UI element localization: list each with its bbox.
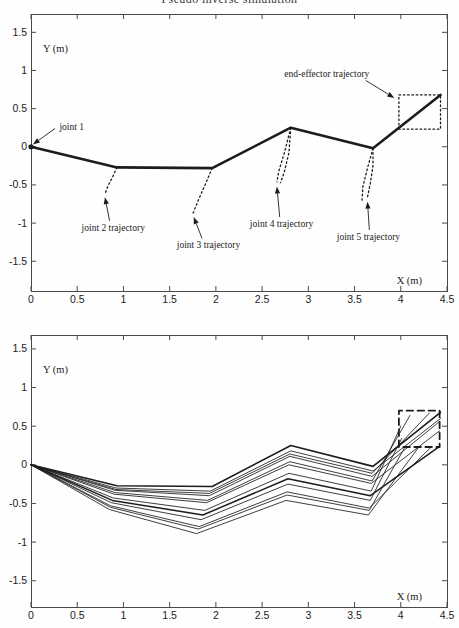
joint-3-trajectory <box>193 168 212 214</box>
annotation-arrow-line <box>366 80 389 94</box>
annotation-label: joint 2 trajectory <box>81 223 146 233</box>
x-axis-label: X (m) <box>397 275 423 287</box>
y-tick-label: -0.5 <box>9 178 27 190</box>
joint-2-trajectory <box>105 167 117 194</box>
annotation-arrowhead <box>33 138 40 144</box>
top-plot: 00.511.522.533.544.5-1.5-1-0.500.511.5X … <box>9 14 455 305</box>
x-tick-label: 2 <box>213 609 219 621</box>
annotation-arrowhead <box>104 197 109 204</box>
y-tick-label: -1 <box>18 536 27 548</box>
x-tick-label: 3 <box>305 293 311 305</box>
y-tick-label: 1 <box>21 64 27 76</box>
figure-canvas: 00.511.522.533.544.5-1.5-1-0.500.511.5X … <box>0 0 459 628</box>
arm-links <box>31 95 441 168</box>
x-tick-label: 2 <box>213 293 219 305</box>
y-tick-label: -1.5 <box>9 255 27 267</box>
annotation-arrow-line <box>106 204 109 221</box>
annotation-label: joint 1 <box>58 122 84 132</box>
x-tick-label: 2.5 <box>255 609 270 621</box>
x-tick-label: 0.5 <box>70 609 85 621</box>
x-tick-label: 4 <box>398 293 404 305</box>
y-tick-label: 1.5 <box>12 26 27 38</box>
annotation-arrow-line <box>39 128 56 140</box>
x-tick-label: 0.5 <box>70 293 85 305</box>
y-axis-label: Y (m) <box>43 364 68 376</box>
x-tick-label: 4.5 <box>440 293 455 305</box>
x-tick-label: 1.5 <box>162 293 177 305</box>
annotation-arrow-line <box>368 209 369 230</box>
annotation-label: joint 4 trajectory <box>249 219 314 229</box>
x-tick-label: 1.5 <box>162 609 177 621</box>
figure-page: Pseudo inverse simulation 00.511.522.533… <box>0 0 459 628</box>
x-tick-label: 3 <box>305 609 311 621</box>
x-tick-label: 1 <box>121 293 127 305</box>
arm-snapshot-4 <box>31 426 401 510</box>
x-tick-label: 0 <box>28 609 34 621</box>
x-tick-label: 4.5 <box>440 609 455 621</box>
y-tick-label: 0 <box>21 458 27 470</box>
annotation-label: joint 3 trajectory <box>176 240 241 250</box>
joint-5-trajectory-right <box>368 148 374 197</box>
joint-1-marker <box>28 144 33 149</box>
annotation-arrowhead <box>275 186 280 193</box>
x-axis-label: X (m) <box>397 591 423 603</box>
arm-snapshot-0 <box>31 412 441 486</box>
y-tick-label: 0.5 <box>12 420 27 432</box>
annotation-arrow-line <box>196 224 202 239</box>
x-tick-label: 0 <box>28 293 34 305</box>
y-tick-label: -1.5 <box>9 574 27 586</box>
bottom-plot-frame <box>31 335 447 607</box>
annotation-arrowhead <box>387 92 394 98</box>
annotation-arrow-line <box>278 193 280 217</box>
y-tick-label: 1.5 <box>12 342 27 354</box>
y-tick-label: 0 <box>21 140 27 152</box>
y-axis-label: Y (m) <box>43 43 68 55</box>
y-tick-label: -1 <box>18 217 27 229</box>
x-tick-label: 3.5 <box>347 293 362 305</box>
annotation-label: end-effector trajectory <box>284 69 369 79</box>
annotation-label: joint 5 trajectory <box>336 232 401 242</box>
x-tick-label: 3.5 <box>347 609 362 621</box>
y-tick-label: 0.5 <box>12 102 27 114</box>
arm-snapshot-8 <box>31 448 430 527</box>
annotation-arrowhead <box>365 202 370 209</box>
x-tick-label: 2.5 <box>255 293 270 305</box>
x-tick-label: 1 <box>121 609 127 621</box>
y-tick-label: 1 <box>21 381 27 393</box>
annotation-arrowhead <box>194 217 199 224</box>
bottom-plot: 00.511.522.533.544.5-1.5-1-0.500.511.5X … <box>9 335 455 621</box>
y-tick-label: -0.5 <box>9 497 27 509</box>
x-tick-label: 4 <box>398 609 404 621</box>
